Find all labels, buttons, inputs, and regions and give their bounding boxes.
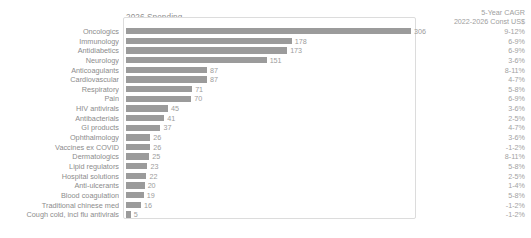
bar-value-label: 151 (270, 56, 282, 65)
chart-row: Respiratory715-8% (0, 85, 531, 94)
bar-track: 25 (126, 152, 416, 161)
bar-value-label: 71 (195, 85, 203, 94)
chart-row: Cardiovascular874-7% (0, 75, 531, 84)
bar-value-label: 26 (153, 133, 161, 142)
bar-track: 173 (126, 46, 416, 55)
bar-track: 87 (126, 66, 416, 75)
cagr-value: 3-6% (405, 104, 525, 113)
category-label: Vaccines ex COVID (0, 143, 119, 152)
category-label: Dermatologics (0, 152, 119, 161)
cagr-value: -1-2% (405, 201, 525, 210)
bar-track: 16 (126, 201, 416, 210)
cagr-title-line-1: 5-Year CAGR (405, 8, 525, 17)
category-label: GI products (0, 123, 119, 132)
cagr-value: -1-2% (405, 143, 525, 152)
bar-track: 70 (126, 94, 416, 103)
bar-value-label: 19 (147, 191, 155, 200)
bar-value-label: 23 (150, 162, 158, 171)
bar (126, 115, 164, 121)
bar-track: 20 (126, 181, 416, 190)
chart-row: Traditional chinese med16-1-2% (0, 201, 531, 210)
bar (126, 47, 287, 53)
bar-value-label: 5 (134, 210, 138, 219)
chart-row: Dermatologics258-11% (0, 152, 531, 161)
bar-value-label: 173 (290, 46, 302, 55)
chart-row: Hospital solutions222-5% (0, 172, 531, 181)
chart-row: Cough cold, incl flu antivirals5-1-2% (0, 210, 531, 219)
category-label: Cardiovascular (0, 75, 119, 84)
bar (126, 163, 147, 169)
bar-track: 71 (126, 85, 416, 94)
bar-track: 45 (126, 104, 416, 113)
bar (126, 38, 292, 44)
chart-row: Pain706-9% (0, 94, 531, 103)
bar (126, 134, 150, 140)
spending-cagr-chart: 2026 Spending 5-Year CAGR 2022-2026 Cons… (0, 0, 531, 238)
bar-track: 37 (126, 123, 416, 132)
cagr-value: 6-9% (405, 46, 525, 55)
chart-row: HIV antivirals453-6% (0, 104, 531, 113)
chart-rows: Oncologics3069-12%Immunology1786-9%Antid… (0, 27, 531, 220)
bar-value-label: 37 (163, 123, 171, 132)
category-label: Antibacterials (0, 114, 119, 123)
cagr-value: 8-11% (405, 152, 525, 161)
category-label: Oncologics (0, 27, 119, 36)
bar-track: 26 (126, 143, 416, 152)
chart-row: Immunology1786-9% (0, 37, 531, 46)
chart-row: Ophthalmology263-6% (0, 133, 531, 142)
category-label: Lipid regulators (0, 162, 119, 171)
bar-track: 22 (126, 172, 416, 181)
bar-value-label: 22 (149, 172, 157, 181)
cagr-value: 6-9% (405, 94, 525, 103)
cagr-value: 6-9% (405, 37, 525, 46)
bar-track: 41 (126, 114, 416, 123)
bar-value-label: 41 (167, 114, 175, 123)
chart-row: Antibacterials412-5% (0, 114, 531, 123)
category-label: Pain (0, 94, 119, 103)
bar-value-label: 87 (210, 66, 218, 75)
bar (126, 67, 207, 73)
category-label: Immunology (0, 37, 119, 46)
bar (126, 182, 145, 188)
bar-track: 19 (126, 191, 416, 200)
cagr-value: 5-8% (405, 85, 525, 94)
bar (126, 211, 131, 217)
bar-value-label: 70 (194, 94, 202, 103)
bar-value-label: 178 (295, 37, 307, 46)
bar (126, 105, 168, 111)
category-label: Hospital solutions (0, 172, 119, 181)
cagr-value: -1-2% (405, 210, 525, 219)
bar-track: 26 (126, 133, 416, 142)
chart-row: Lipid regulators235-8% (0, 162, 531, 171)
bar-track: 87 (126, 75, 416, 84)
bar (126, 76, 207, 82)
bar-track: 306 (126, 27, 416, 36)
cagr-value: 4-7% (405, 75, 525, 84)
cagr-value: 5-8% (405, 162, 525, 171)
bar-value-label: 20 (148, 181, 156, 190)
bar (126, 86, 192, 92)
category-label: Cough cold, incl flu antivirals (0, 210, 119, 219)
category-label: Traditional chinese med (0, 201, 119, 210)
cagr-value: 1-4% (405, 181, 525, 190)
category-label: Respiratory (0, 85, 119, 94)
cagr-title-line-2: 2022-2026 Const US$ (405, 17, 525, 26)
bar (126, 202, 141, 208)
cagr-value: 5-8% (405, 191, 525, 200)
chart-row: Blood coagulation195-8% (0, 191, 531, 200)
bar-value-label: 45 (171, 104, 179, 113)
cagr-value: 2-5% (405, 172, 525, 181)
bar-value-label: 25 (152, 152, 160, 161)
cagr-value: 8-11% (405, 66, 525, 75)
bar (126, 57, 267, 63)
bar (126, 28, 411, 34)
category-label: Neurology (0, 56, 119, 65)
chart-row: Anticoagulants878-11% (0, 66, 531, 75)
bar (126, 125, 160, 131)
bar (126, 173, 146, 179)
cagr-value: 3-6% (405, 133, 525, 142)
category-label: Anticoagulants (0, 66, 119, 75)
bar (126, 192, 144, 198)
cagr-value: 9-12% (405, 27, 525, 36)
bar-track: 151 (126, 56, 416, 65)
